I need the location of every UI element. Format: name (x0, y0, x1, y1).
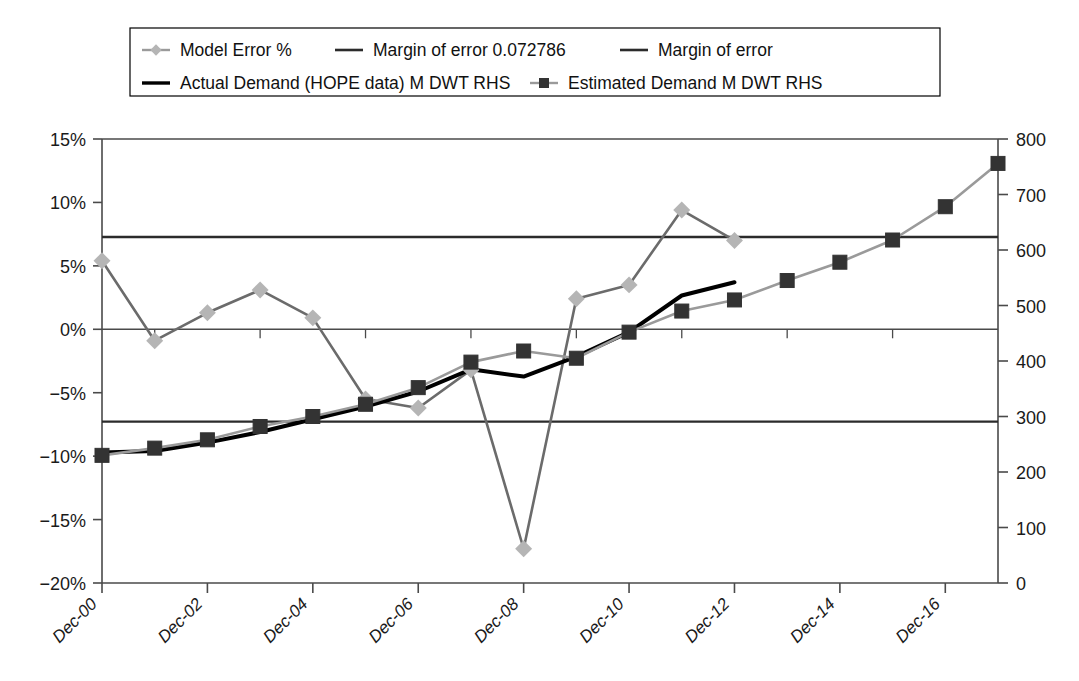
series-marker (146, 332, 163, 349)
legend-label: Margin of error (658, 40, 773, 60)
left-axis-tick-label: 5% (60, 257, 86, 277)
series-marker (675, 304, 689, 318)
x-axis-tick-label: Dec-00 (49, 594, 102, 647)
series-marker (621, 276, 638, 293)
right-axis-tick-label: 700 (1016, 186, 1046, 206)
series-line (102, 210, 734, 549)
legend-item[interactable]: Actual Demand (HOPE data) M DWT RHS (142, 73, 510, 93)
x-axis-tick-label: Dec-04 (259, 594, 311, 646)
chart-container: Model Error %Margin of error 0.072786Mar… (0, 0, 1079, 681)
left-axis-tick-label: −5% (49, 384, 86, 404)
left-axis-tick-label: −10% (39, 447, 86, 467)
right-axis-tick-label: 600 (1016, 241, 1046, 261)
series-marker (411, 381, 425, 395)
right-axis-tick-label: 200 (1016, 463, 1046, 483)
right-axis-tick-label: 800 (1016, 130, 1046, 150)
legend-square-marker (539, 78, 549, 88)
series-marker (886, 233, 900, 247)
series-line (102, 163, 998, 455)
series-marker (726, 232, 743, 249)
left-axis-tick-label: −15% (39, 511, 86, 531)
series-marker (94, 252, 111, 269)
series-marker (252, 281, 269, 298)
series-marker (148, 441, 162, 455)
series-marker (780, 274, 794, 288)
series-marker (622, 325, 636, 339)
series-marker (833, 255, 847, 269)
series-marker (673, 202, 690, 219)
left-axis-tick-label: 0% (60, 320, 86, 340)
chart-canvas: Model Error %Margin of error 0.072786Mar… (0, 0, 1079, 681)
x-axis-tick-label: Dec-14 (787, 594, 839, 646)
right-axis-tick-label: 400 (1016, 352, 1046, 372)
series-marker (200, 433, 214, 447)
series-marker (569, 351, 583, 365)
right-axis-tick-label: 0 (1016, 574, 1026, 594)
legend-item[interactable]: Estimated Demand M DWT RHS (530, 73, 822, 93)
right-axis-tick-label: 300 (1016, 408, 1046, 428)
series-line (102, 282, 734, 452)
x-axis-tick-label: Dec-10 (576, 594, 629, 647)
left-axis-tick-label: 10% (50, 193, 86, 213)
series-marker (304, 309, 321, 326)
series-marker (253, 419, 267, 433)
x-axis-tick-label: Dec-08 (470, 594, 523, 647)
x-axis-tick-label: Dec-06 (365, 594, 418, 647)
series-marker (95, 448, 109, 462)
x-axis-tick-label: Dec-12 (681, 594, 734, 647)
x-axis-tick-label: Dec-02 (154, 594, 207, 647)
series-marker (727, 293, 741, 307)
series-marker (568, 290, 585, 307)
legend-label: Model Error % (180, 40, 292, 60)
legend-label: Actual Demand (HOPE data) M DWT RHS (180, 73, 510, 93)
series-marker (464, 355, 478, 369)
legend-label: Margin of error 0.072786 (373, 40, 566, 60)
left-axis-tick-label: 15% (50, 130, 86, 150)
series-marker (199, 304, 216, 321)
x-axis-tick-label: Dec-16 (892, 594, 945, 647)
series-marker (359, 397, 373, 411)
left-axis-tick-label: −20% (39, 574, 86, 594)
series-marker (515, 540, 532, 557)
series-marker (938, 200, 952, 214)
legend-label: Estimated Demand M DWT RHS (568, 73, 822, 93)
series-marker (410, 399, 427, 416)
series-marker (517, 344, 531, 358)
series-marker (991, 156, 1005, 170)
right-axis-tick-label: 500 (1016, 297, 1046, 317)
right-axis-tick-label: 100 (1016, 519, 1046, 539)
series-marker (306, 410, 320, 424)
